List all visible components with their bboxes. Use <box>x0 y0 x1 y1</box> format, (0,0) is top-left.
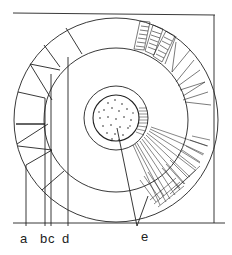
label-a: a <box>20 232 27 245</box>
leader-e2 <box>137 196 148 226</box>
radial-bands <box>133 127 210 207</box>
diagram <box>0 0 232 255</box>
label-d: d <box>62 232 69 245</box>
middle-circle <box>44 48 188 192</box>
core-stipple <box>98 99 133 141</box>
hatched-blocks-top <box>134 21 211 105</box>
label-c: c <box>48 232 55 245</box>
inner-ring-circle <box>84 86 148 150</box>
top-line <box>13 13 215 15</box>
label-e: e <box>141 230 148 243</box>
leader-e1 <box>117 128 137 226</box>
label-b: b <box>40 232 47 245</box>
